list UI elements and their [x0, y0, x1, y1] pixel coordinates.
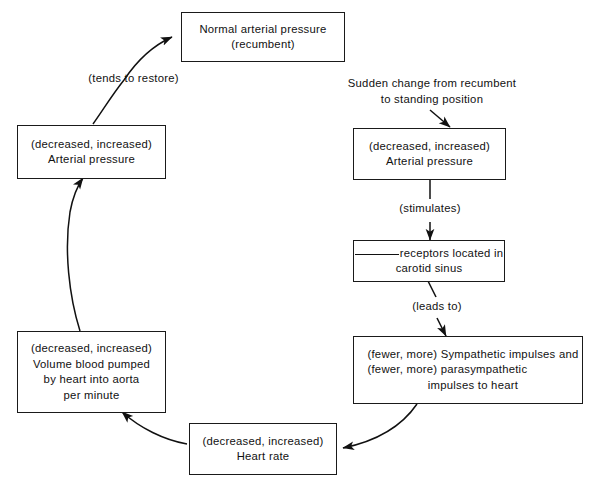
- node-line: Normal arterial pressure: [199, 22, 326, 38]
- edge-label-line: Sudden change from recumbent: [337, 76, 527, 92]
- node-line: per minute: [64, 388, 120, 404]
- node-line: (fewer, more) Sympathetic impulses and: [367, 347, 578, 363]
- node-line: Heart rate: [237, 449, 290, 465]
- node-line-text: receptors located in: [400, 247, 504, 259]
- node-line: carotid sinus: [396, 261, 463, 277]
- node-right-arterial-pressure: (decreased, increased) Arterial pressure: [353, 128, 506, 180]
- node-line: Arterial pressure: [48, 152, 135, 168]
- connector-suddenchange-to-pressure: [430, 110, 450, 127]
- node-sympathetic-impulses: (fewer, more) Sympathetic impulses and (…: [353, 336, 583, 404]
- connector-sympathetic-to-heartrate: [343, 404, 417, 448]
- node-line: (decreased, increased): [369, 139, 490, 155]
- edge-label-line: (leads to): [382, 299, 492, 315]
- edge-label-line: to standing position: [337, 92, 527, 108]
- flowchart-diagram: Normal arterial pressure (recumbent) (de…: [0, 0, 594, 503]
- edge-label-leads-to: (leads to): [382, 299, 492, 315]
- node-line: impulses to heart: [428, 378, 518, 394]
- edge-label-tends-to-restore: (tends to restore): [66, 71, 201, 87]
- edge-label-line: (stimulates): [375, 201, 485, 217]
- node-line: (decreased, increased): [202, 434, 323, 450]
- connector-heartrate-to-volume: [122, 412, 187, 444]
- node-line: (recumbent): [231, 37, 295, 53]
- node-left-arterial-pressure: (decreased, increased) Arterial pressure: [17, 125, 166, 179]
- node-line-with-blank: receptors located in: [355, 246, 504, 262]
- edge-label-stimulates: (stimulates): [375, 201, 485, 217]
- node-line: by heart into aorta: [44, 372, 140, 388]
- node-line: Arterial pressure: [386, 154, 473, 170]
- node-volume-blood-pumped: (decreased, increased) Volume blood pump…: [17, 331, 166, 413]
- node-line: (fewer, more) parasympathetic: [367, 362, 527, 378]
- node-heart-rate: (decreased, increased) Heart rate: [189, 423, 337, 475]
- node-normal-arterial-pressure: Normal arterial pressure (recumbent): [181, 12, 345, 62]
- node-text-block: (fewer, more) Sympathetic impulses and (…: [357, 347, 578, 394]
- edge-label-sudden-change: Sudden change from recumbent to standing…: [337, 76, 527, 107]
- node-line: (decreased, increased): [31, 137, 152, 153]
- fill-in-blank: [355, 254, 399, 255]
- connector-leadsto-to-sympathetic: [437, 318, 446, 336]
- edge-label-line: (tends to restore): [66, 71, 201, 87]
- node-line: Volume blood pumped: [33, 357, 150, 373]
- node-receptors-carotid-sinus: receptors located in carotid sinus: [353, 240, 505, 282]
- connector-volume-to-pressure: [67, 178, 83, 331]
- node-line: (decreased, increased): [31, 341, 152, 357]
- connector-receptors-to-leadsto: [428, 281, 436, 297]
